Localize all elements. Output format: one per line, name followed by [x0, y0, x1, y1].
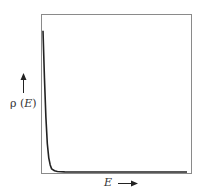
- plot-frame: [42, 15, 192, 174]
- x-axis-arrow-icon: [118, 181, 138, 187]
- y-axis-arrow-icon: [21, 73, 27, 93]
- y-label-close-paren: ): [32, 97, 36, 110]
- y-axis-label: ρ (E): [10, 97, 37, 110]
- x-axis-label: E: [104, 176, 112, 189]
